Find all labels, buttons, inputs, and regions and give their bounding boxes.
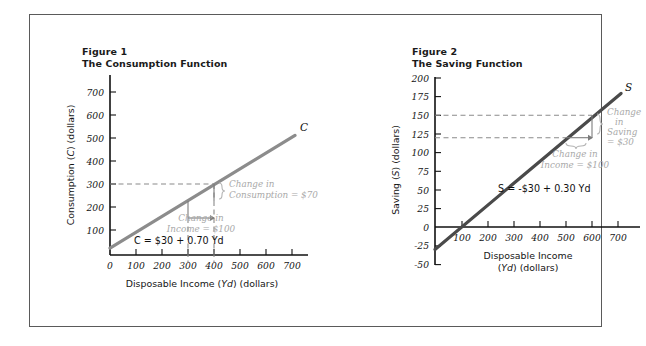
figure-2-plot: 200 175 150 125 100 75 50 25 0 -25 -50 — [330, 15, 646, 328]
figure-1-x-axis-label: Disposable Income (Yd) (dollars) — [126, 278, 279, 289]
figure-2-saving-bracket — [597, 114, 603, 134]
figure-2-y-ticks — [435, 78, 441, 265]
figure-2-annot-income-line1: Change in — [552, 149, 598, 159]
figure-2-saving-curve — [435, 93, 621, 249]
figure-1-ytick-200: 200 — [85, 202, 104, 213]
figure-2: Figure 2 The Saving Function — [330, 15, 646, 326]
figure-2-ytick-0: 0 — [423, 222, 429, 233]
figure-2-ytick-50: 50 — [417, 185, 429, 196]
figure-1-annot-consumption-line2: Consumption = $70 — [229, 190, 318, 200]
figure-2-annot-saving-line3: Saving — [607, 127, 638, 137]
figure-2-annot-income-line2: Income = $100 — [540, 160, 610, 170]
figure-2-ytick-125: 125 — [411, 129, 429, 140]
figure-1-xtick-700: 700 — [283, 260, 301, 271]
figure-1-ytick-700: 700 — [86, 87, 104, 98]
figure-1-xtick-200: 200 — [152, 260, 171, 271]
figure-1-plot: 700 600 500 400 300 200 100 0 1 — [30, 15, 330, 328]
figures-frame: Figure 1 The Consumption Function — [29, 14, 602, 327]
figure-2-xtick-300: 300 — [505, 232, 523, 243]
figure-1-y-ticks — [110, 92, 116, 230]
figure-1-ytick-100: 100 — [86, 225, 104, 236]
figure-1-ytick-500: 500 — [86, 133, 104, 144]
figure-2-ytick-150: 150 — [411, 110, 429, 121]
figure-2-annot-saving-line4: = $30 — [607, 137, 634, 147]
figure-1-ytick-300: 300 — [86, 179, 104, 190]
figure-1-annot-income-line1: Change in — [178, 213, 224, 223]
figure-1-xtick-0: 0 — [107, 260, 113, 271]
figure-2-xtick-400: 400 — [530, 232, 549, 243]
figure-1: Figure 1 The Consumption Function — [30, 15, 330, 326]
figure-1-y-axis-label: Consumption (C) (dollars) — [65, 105, 76, 226]
figure-1-ytick-400: 400 — [85, 156, 104, 167]
figure-2-x-axis-label-line2: (Yd) (dollars) — [498, 262, 559, 273]
figure-2-ytick-175: 175 — [411, 91, 429, 102]
figure-1-xtick-500: 500 — [231, 260, 249, 271]
figure-2-ytick-25: 25 — [416, 203, 429, 214]
figure-2-y-axis-label: Saving (S) (dollars) — [390, 125, 401, 215]
figure-2-equation: S = -$30 + 0.30 Yd — [498, 183, 591, 194]
figure-2-annot-saving-line2: in — [615, 117, 624, 127]
figure-1-annot-income-line2: Income = $100 — [166, 224, 236, 234]
figure-1-ytick-600: 600 — [86, 110, 104, 121]
figure-2-annot-saving-line1: Change — [607, 107, 641, 117]
figure-2-curve-label: S — [625, 81, 632, 93]
figure-2-xtick-600: 600 — [583, 232, 601, 243]
figure-2-xtick-700: 700 — [609, 232, 627, 243]
figure-2-ytick-200: 200 — [410, 73, 429, 84]
figure-1-annot-consumption-line1: Change in — [229, 179, 275, 189]
figure-2-ytick-100: 100 — [411, 147, 429, 158]
figure-2-ytick-m25: -25 — [414, 240, 429, 251]
figure-1-xtick-100: 100 — [127, 260, 145, 271]
figure-2-ytick-75: 75 — [417, 166, 429, 177]
figure-1-curve-label: C — [300, 121, 308, 133]
figure-1-equation: C = $30 + 0.70 Yd — [134, 235, 224, 246]
figure-1-xtick-600: 600 — [257, 260, 275, 271]
figure-2-ytick-m50: -50 — [414, 259, 429, 270]
figure-2-x-axis-label-line1: Disposable Income — [484, 250, 573, 261]
figure-2-xtick-200: 200 — [478, 232, 497, 243]
figure-2-xtick-500: 500 — [557, 232, 575, 243]
figure-2-x-ticks — [462, 221, 618, 227]
figure-1-consumption-bracket — [219, 183, 225, 199]
